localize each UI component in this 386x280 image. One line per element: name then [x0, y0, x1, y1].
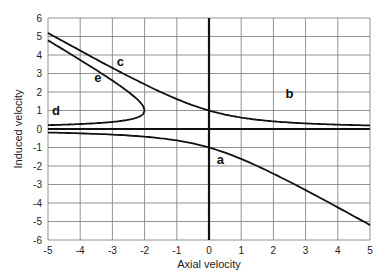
y-tick-label: -6: [33, 235, 42, 246]
x-tick-label: 3: [303, 245, 309, 256]
y-tick-label: -1: [33, 142, 42, 153]
y-tick-label: -3: [33, 179, 42, 190]
x-axis-label: Axial velocity: [177, 258, 241, 270]
curve-c: [48, 33, 209, 111]
x-tick-label: -4: [76, 245, 85, 256]
x-tick-label: -5: [44, 245, 53, 256]
curve-label-d: d: [52, 103, 60, 118]
y-tick-label: 3: [36, 68, 42, 79]
x-tick-label: 1: [238, 245, 244, 256]
y-tick-label: 4: [36, 50, 42, 61]
y-tick-label: 6: [36, 13, 42, 24]
curve-label-b: b: [286, 86, 294, 101]
x-tick-label: 0: [206, 245, 212, 256]
y-tick-label: -4: [33, 198, 42, 209]
curve-label-c: c: [117, 54, 124, 69]
x-tick-label: 2: [271, 245, 277, 256]
y-tick-label: -2: [33, 161, 42, 172]
y-tick-label: -5: [33, 216, 42, 227]
curve-b: [209, 111, 370, 126]
curve-label-a: a: [217, 152, 225, 167]
x-tick-label: 4: [335, 245, 341, 256]
x-tick-label: -1: [172, 245, 181, 256]
y-axis-label: Induced velocity: [12, 89, 24, 168]
grid: [48, 18, 370, 240]
curve-label-e: e: [94, 70, 101, 85]
y-tick-label: 1: [36, 105, 42, 116]
curve-d: [48, 111, 145, 126]
x-tick-label: -3: [108, 245, 117, 256]
y-tick-label: 5: [36, 31, 42, 42]
y-tick-label: 2: [36, 87, 42, 98]
y-tick-label: 0: [36, 124, 42, 135]
x-tick-label: 5: [367, 245, 373, 256]
induced-velocity-chart: -5-4-3-2-1012345-6-5-4-3-2-10123456 abcd…: [0, 0, 386, 280]
x-tick-label: -2: [140, 245, 149, 256]
